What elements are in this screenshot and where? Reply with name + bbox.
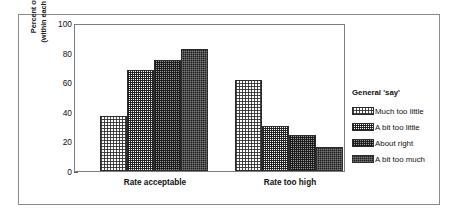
legend-item-about-right: About right [352, 136, 438, 150]
bar-rate-too-high-much-too-little [235, 80, 262, 171]
legend-swatch-about-right [352, 139, 374, 147]
bar-rate-too-high-a-bit-too-much [316, 147, 343, 171]
y-axis-tick-labels: 0 20 40 60 80 100 [44, 24, 72, 172]
legend: General 'say' Much too little A bit too … [352, 88, 438, 168]
legend-item-a-bit-too-little: A bit too little [352, 120, 438, 134]
y-axis-title-line-1: Percent of employees [29, 0, 40, 33]
y-tick-label-60: 60 [46, 78, 72, 88]
legend-label-a-bit-too-little: A bit too little [375, 123, 420, 132]
bar-rate-acceptable-a-bit-too-little [127, 70, 154, 171]
y-tick-label-100: 100 [46, 19, 72, 29]
legend-label-much-too-little: Much too little [375, 107, 424, 116]
legend-item-much-too-little: Much too little [352, 104, 438, 118]
y-tick-label-20: 20 [46, 137, 72, 147]
bar-rate-acceptable-a-bit-too-much [181, 49, 208, 171]
legend-swatch-much-too-little [352, 107, 374, 115]
bar-rate-acceptable-about-right [154, 60, 181, 171]
bar-rate-too-high-a-bit-too-little [262, 126, 289, 171]
legend-item-a-bit-too-much: A bit too much [352, 152, 438, 166]
legend-label-about-right: About right [375, 139, 413, 148]
bars-layer [75, 25, 344, 171]
bar-chart-figure: Percent of employees (within each 'say' … [0, 0, 458, 220]
x-axis-label-rate-acceptable: Rate acceptable [100, 178, 210, 187]
y-tick-label-80: 80 [46, 49, 72, 59]
legend-swatch-a-bit-too-much [352, 155, 374, 163]
bar-rate-too-high-about-right [289, 135, 316, 172]
y-tick-label-0: 0 [46, 167, 72, 177]
legend-title: General 'say' [352, 88, 438, 97]
legend-swatch-a-bit-too-little [352, 123, 374, 131]
legend-label-a-bit-too-much: A bit too much [375, 155, 425, 164]
y-tick-mark-0 [74, 172, 78, 173]
x-axis-label-rate-too-high: Rate too high [235, 178, 345, 187]
bar-rate-acceptable-much-too-little [100, 116, 127, 171]
y-tick-label-40: 40 [46, 108, 72, 118]
